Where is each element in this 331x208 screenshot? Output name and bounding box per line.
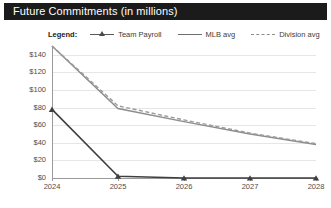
chart-series-layer bbox=[0, 0, 331, 208]
chart-widget: Future Commitments (in millions) Legend:… bbox=[0, 0, 331, 208]
series-line-division-avg bbox=[52, 46, 316, 144]
series-line-mlb-avg bbox=[52, 46, 316, 145]
data-point-marker bbox=[49, 107, 55, 112]
